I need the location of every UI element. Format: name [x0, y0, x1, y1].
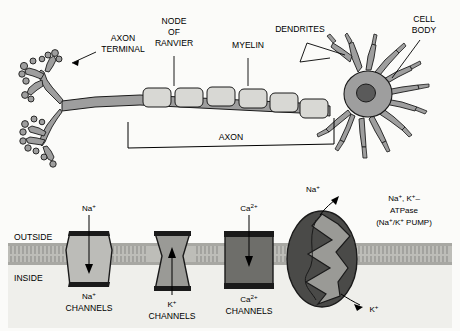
label-axon: AXON — [219, 132, 243, 142]
label-node-line1: NODE — [162, 16, 187, 26]
label-axon-terminal-line1: AXON — [111, 33, 135, 43]
channel-name-k-line2: CHANNELS — [149, 311, 196, 321]
pump-label-line3: (Na+/K+ PUMP) — [376, 216, 432, 227]
label-cell-body-line2: BODY — [412, 25, 437, 35]
label-myelin: MYELIN — [232, 40, 264, 50]
label-axon-terminal-line2: TERMINAL — [101, 44, 145, 54]
figure-canvas: AXON TERMINAL NODE OF RANVIER MYELIN DEN… — [0, 0, 460, 331]
channel-name-na-line2: CHANNELS — [66, 303, 113, 313]
label-cell-body-line1: CELL — [413, 14, 435, 24]
label-dendrites: DENDRITES — [275, 24, 325, 34]
label-inside: INSIDE — [14, 273, 43, 283]
label-outside: OUTSIDE — [14, 232, 52, 242]
diagram-svg: AXON TERMINAL NODE OF RANVIER MYELIN DEN… — [0, 0, 460, 331]
channel-name-ca-line2: CHANNELS — [226, 306, 273, 316]
label-node-line2: OF — [168, 27, 180, 37]
pump-label-line1: Na+, K+– — [388, 192, 420, 203]
pump-label-line2: ATPase — [390, 206, 418, 215]
nucleus — [357, 84, 376, 102]
label-node-line3: RANVIER — [155, 38, 193, 48]
